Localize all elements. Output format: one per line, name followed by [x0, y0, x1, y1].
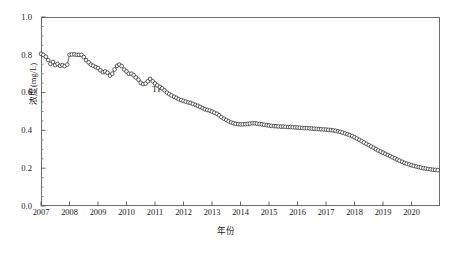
chart-canvas: [0, 0, 451, 258]
y-tick-label: 0.8: [6, 51, 32, 60]
x-tick-label: 2018: [339, 209, 371, 217]
y-tick-label: 0.4: [6, 126, 32, 135]
y-tick-label: 1.0: [6, 13, 32, 22]
x-tick-label: 2010: [111, 209, 143, 217]
y-tick-label: 0.6: [6, 88, 32, 97]
x-tick-label: 2011: [139, 209, 171, 217]
figure-container: 浓度(mg/L) 年份 TP 0.00.20.40.60.81.02007200…: [0, 0, 451, 258]
x-tick-label: 2009: [82, 209, 114, 217]
x-tick-label: 2013: [196, 209, 228, 217]
x-tick-label: 2014: [225, 209, 257, 217]
x-tick-label: 2008: [54, 209, 86, 217]
x-tick-label: 2019: [367, 209, 399, 217]
x-tick-label: 2017: [310, 209, 342, 217]
x-tick-label: 2016: [282, 209, 314, 217]
x-tick-label: 2015: [253, 209, 285, 217]
x-tick-label: 2020: [396, 209, 428, 217]
y-tick-label: 0.2: [6, 164, 32, 173]
x-tick-label: 2012: [168, 209, 200, 217]
x-tick-label: 2007: [25, 209, 57, 217]
